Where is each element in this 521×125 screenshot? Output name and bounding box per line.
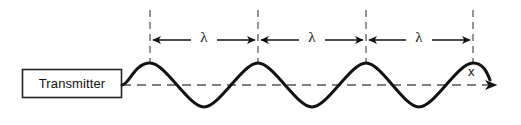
diagram-canvas (0, 0, 521, 125)
wavelength-diagram: Transmitter λ λ λ x (0, 0, 521, 125)
transmitter-box (23, 70, 122, 98)
crest-marker-lines (150, 10, 473, 64)
